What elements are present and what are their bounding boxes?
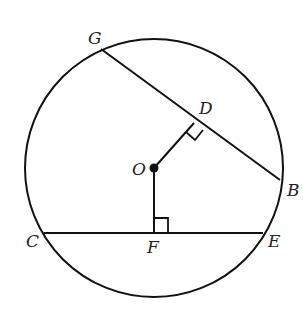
label-f: F — [146, 237, 160, 257]
label-b: B — [286, 180, 300, 200]
chord-gb — [101, 49, 280, 180]
segment-od — [154, 123, 194, 168]
label-d: D — [198, 98, 213, 118]
right-angle-mark-d — [186, 130, 203, 140]
right-angle-mark-f — [154, 218, 168, 233]
geometry-diagram: G D O B C F E — [0, 0, 303, 309]
label-e: E — [267, 231, 281, 251]
center-point-o — [150, 164, 159, 173]
label-g: G — [88, 28, 102, 48]
label-c: C — [26, 231, 39, 251]
label-o: O — [132, 159, 146, 179]
